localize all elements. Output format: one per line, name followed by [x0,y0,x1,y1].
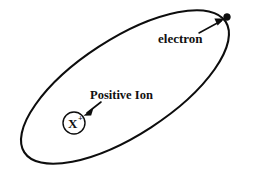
electron-label: electron [158,31,203,46]
diagram-canvas: electron X + Positive Ion [0,0,253,177]
orbit-diagram: electron X + Positive Ion [0,0,253,177]
ion-charge-label: + [78,113,83,123]
ion-symbol-label: X [68,116,78,131]
electron-dot-icon [224,14,231,21]
positive-ion-label: Positive Ion [90,88,153,102]
